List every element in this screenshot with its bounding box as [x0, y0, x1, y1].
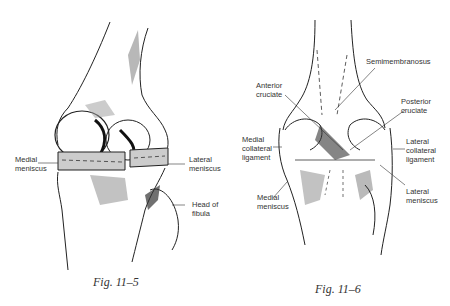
- label-lateral-collateral-ligament: Lateral collateral ligament: [406, 137, 436, 164]
- figure-11-5: Medial meniscus Lateral meniscus Head of…: [0, 0, 225, 306]
- figure-caption: Fig. 11–5: [93, 275, 139, 290]
- figure-caption: Fig. 11–6: [315, 282, 361, 297]
- figure-11-6: Semimembranosus Anterior cruciate Poster…: [225, 0, 450, 306]
- label-medial-meniscus: Medial meniscus: [257, 193, 289, 211]
- label-posterior-cruciate: Posterior cruciate: [401, 97, 431, 115]
- label-anterior-cruciate: Anterior cruciate: [256, 81, 282, 99]
- label-head-of-fibula: Head of fibula: [192, 200, 218, 218]
- label-medial-collateral-ligament: Medial collateral ligament: [242, 135, 272, 162]
- label-semimembranosus: Semimembranosus: [366, 57, 431, 66]
- label-lateral-meniscus: Lateral meniscus: [406, 187, 438, 205]
- knee-front-illustration: [0, 0, 225, 306]
- label-lateral-meniscus: Lateral meniscus: [189, 155, 221, 173]
- label-medial-meniscus: Medial meniscus: [15, 155, 47, 173]
